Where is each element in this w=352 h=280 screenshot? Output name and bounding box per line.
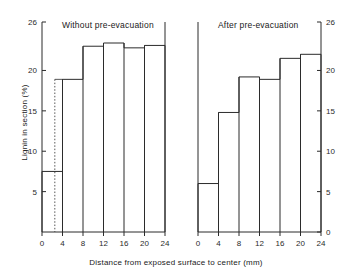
y-tick-label-after-pre-evacuation-5: 5	[326, 188, 331, 197]
x-tick-label-after-pre-evacuation-24: 24	[317, 239, 326, 248]
x-tick-label-without-pre-evacuation-20: 20	[140, 239, 149, 248]
x-tick-label-without-pre-evacuation-24: 24	[161, 239, 170, 248]
y-tick-label-after-pre-evacuation-26: 26	[326, 18, 335, 27]
x-axis-label: Distance from exposed surface to center …	[0, 258, 352, 267]
y-tick-label-after-pre-evacuation-10: 10	[326, 147, 335, 156]
panel-title-after-pre-evacuation: After pre-evacuation	[218, 20, 299, 30]
x-tick-label-after-pre-evacuation-0: 0	[196, 239, 201, 248]
x-tick-label-without-pre-evacuation-12: 12	[99, 239, 108, 248]
y-axis-label: Lignin in section (%)	[20, 53, 29, 193]
x-tick-label-without-pre-evacuation-4: 4	[60, 239, 65, 248]
x-tick-label-without-pre-evacuation-16: 16	[120, 239, 129, 248]
chart-canvas: 5101520260481216202405101520260481216202…	[0, 0, 352, 280]
y-tick-label-without-pre-evacuation-10: 10	[28, 147, 37, 156]
y-tick-label-without-pre-evacuation-20: 20	[28, 66, 37, 75]
y-tick-label-without-pre-evacuation-15: 15	[28, 107, 37, 116]
x-tick-label-without-pre-evacuation-0: 0	[40, 239, 45, 248]
x-tick-label-after-pre-evacuation-16: 16	[276, 239, 285, 248]
x-tick-label-after-pre-evacuation-12: 12	[255, 239, 264, 248]
y-tick-label-without-pre-evacuation-26: 26	[28, 18, 37, 27]
panel-title-without-pre-evacuation: Without pre-evacuation	[62, 20, 154, 30]
x-tick-label-without-pre-evacuation-8: 8	[81, 239, 86, 248]
x-tick-label-after-pre-evacuation-8: 8	[237, 239, 242, 248]
x-tick-label-after-pre-evacuation-20: 20	[296, 239, 305, 248]
lignin-distribution-figure: Lignin in section (%) Distance from expo…	[0, 0, 352, 280]
y-tick-label-after-pre-evacuation-15: 15	[326, 107, 335, 116]
y-tick-label-without-pre-evacuation-5: 5	[33, 188, 38, 197]
x-tick-label-after-pre-evacuation-4: 4	[216, 239, 221, 248]
y-tick-label-after-pre-evacuation-0: 0	[326, 228, 331, 237]
y-tick-label-after-pre-evacuation-20: 20	[326, 66, 335, 75]
